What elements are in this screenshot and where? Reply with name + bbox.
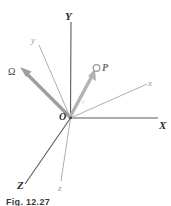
axis-z-line [61,118,71,181]
axis-label-Z: Z [17,180,24,191]
axis-Y-line [71,22,72,118]
figure-container: Y X Z y x z Ω P O r Fig. 12.27 [0,0,171,206]
angular-velocity-label: Ω [8,67,15,77]
axis-label-Y: Y [65,11,72,22]
axis-label-z: z [58,184,62,193]
axis-label-X: X [159,120,166,131]
axis-y-line [39,45,71,118]
position-vector-label-r: r [82,99,85,106]
fixed-frame-axes [25,22,158,184]
r-shaft [70,76,92,117]
origin-marker [69,116,72,119]
position-vector [70,69,96,117]
origin-label-O: O [59,112,66,122]
rotating-frame-axes [39,45,147,181]
vector-diagram-svg [0,0,171,206]
angular-velocity-vector [20,67,70,117]
axis-Z-line [25,118,71,184]
axis-label-y: y [31,36,35,45]
point-P-marker [93,65,100,72]
axis-label-x: x [148,79,152,88]
figure-caption: Fig. 12.27 [6,197,50,206]
point-label-P: P [102,63,108,73]
